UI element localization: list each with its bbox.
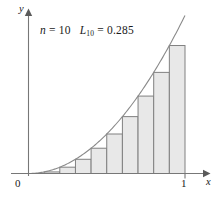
x-axis-label: x [206, 176, 211, 187]
riemann-rectangles [44, 46, 185, 174]
riemann-rectangle [154, 72, 170, 173]
riemann-rectangle [107, 134, 123, 174]
sum-equals: = [97, 24, 104, 36]
riemann-sum-figure: n = 10L10 = 0.285 y x 0 1 [0, 0, 219, 201]
riemann-rectangle [138, 96, 154, 173]
n-value: 10 [59, 24, 71, 36]
riemann-rectangle [75, 159, 91, 173]
n-equals: = [49, 24, 56, 36]
riemann-rectangle [60, 167, 76, 173]
sum-value: 0.285 [107, 24, 134, 36]
x-tick-label-one: 1 [181, 177, 187, 189]
origin-label: 0 [15, 177, 21, 189]
riemann-rectangle [91, 148, 107, 173]
y-axis-arrowhead [25, 9, 32, 17]
riemann-rectangle [169, 46, 185, 174]
annotation-text: n = 10L10 = 0.285 [40, 24, 134, 38]
y-axis-label: y [19, 3, 24, 14]
riemann-rectangle [122, 117, 138, 174]
